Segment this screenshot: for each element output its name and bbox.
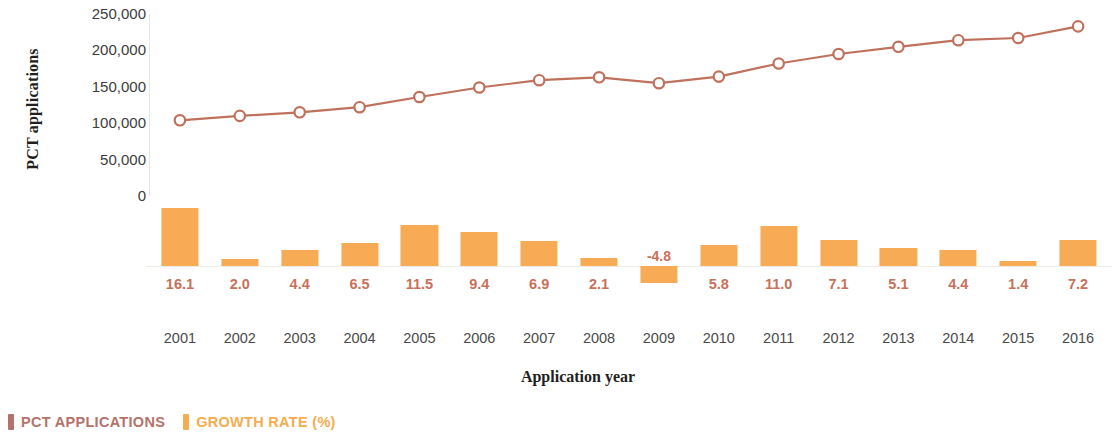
line-data-point [953, 35, 963, 45]
growth-rate-bar [341, 243, 378, 266]
growth-rate-value-label: 11.0 [749, 276, 809, 292]
x-axis-tick-label: 2001 [150, 330, 210, 346]
growth-rate-bar [281, 250, 318, 266]
legend-label: GROWTH RATE (%) [196, 414, 336, 430]
growth-rate-value-labels: 16.12.04.46.511.59.46.92.15.811.07.15.14… [150, 276, 1108, 298]
growth-rate-bars: -4.8 [150, 198, 1108, 270]
growth-rate-bar [521, 241, 558, 266]
x-axis-tick-label: 2015 [988, 330, 1048, 346]
growth-rate-value-label: 4.4 [270, 276, 330, 292]
growth-rate-value-label: 1.4 [988, 276, 1048, 292]
legend-item[interactable]: GROWTH RATE (%) [183, 414, 336, 430]
growth-rate-value-label: 5.8 [689, 276, 749, 292]
pct-applications-chart: PCT applications 250,000200,000150,00010… [0, 0, 1116, 439]
line-data-point [654, 78, 664, 88]
line-data-point [594, 72, 604, 82]
chart-legend: PCT APPLICATIONSGROWTH RATE (%) [8, 414, 336, 430]
x-axis-tick-label: 2008 [569, 330, 629, 346]
growth-rate-bar [760, 226, 797, 266]
growth-rate-bar [161, 208, 198, 266]
bar-slot [928, 198, 988, 270]
x-axis-tick-label: 2002 [210, 330, 270, 346]
legend-item[interactable]: PCT APPLICATIONS [8, 414, 165, 430]
growth-rate-bar [1000, 261, 1037, 266]
growth-rate-value-label: 7.1 [809, 276, 869, 292]
growth-rate-bar [880, 248, 917, 266]
x-axis-tick-label: 2010 [689, 330, 749, 346]
line-data-point [774, 58, 784, 68]
growth-rate-bar [581, 258, 618, 266]
bar-slot [150, 198, 210, 270]
x-axis-tick-labels: 2001200220032004200520062007200820092010… [150, 330, 1108, 352]
legend-swatch-icon [8, 414, 14, 430]
line-data-point [354, 102, 364, 112]
growth-rate-value-label: 16.1 [150, 276, 210, 292]
growth-rate-value-label: 7.2 [1048, 276, 1108, 292]
line-data-point [235, 111, 245, 121]
line-data-point [1013, 33, 1023, 43]
bar-slot [210, 198, 270, 270]
growth-rate-value-label: 4.4 [928, 276, 988, 292]
bar-slot [449, 198, 509, 270]
legend-label: PCT APPLICATIONS [21, 414, 165, 430]
x-axis-tick-label: 2013 [869, 330, 929, 346]
bar-slot [749, 198, 809, 270]
growth-rate-bar [940, 250, 977, 266]
line-data-point [1073, 21, 1083, 31]
growth-rate-bar [221, 259, 258, 266]
line-data-point [534, 75, 544, 85]
y-axis-tick-labels: 250,000200,000150,000100,00050,0000 [46, 0, 146, 200]
x-axis-tick-label: 2004 [330, 330, 390, 346]
growth-rate-bar [700, 245, 737, 266]
bar-slot [509, 198, 569, 270]
growth-rate-bar [1060, 240, 1097, 266]
y-axis-tick-label: 150,000 [46, 78, 146, 95]
x-axis-tick-label: 2012 [809, 330, 869, 346]
y-axis-title: PCT applications [24, 24, 42, 194]
x-axis-title: Application year [0, 368, 1116, 386]
growth-rate-bar [820, 240, 857, 266]
bar-slot [330, 198, 390, 270]
growth-rate-value-label: 9.4 [449, 276, 509, 292]
legend-swatch-icon [183, 414, 189, 430]
growth-rate-value-label: 5.1 [869, 276, 929, 292]
line-data-point [893, 42, 903, 52]
y-axis-tick-label: 200,000 [46, 41, 146, 58]
line-data-point [295, 107, 305, 117]
growth-rate-value-label: 6.5 [330, 276, 390, 292]
x-axis-tick-label: 2011 [749, 330, 809, 346]
x-axis-tick-label: 2006 [449, 330, 509, 346]
bar-slot [569, 198, 629, 270]
bar-slot [988, 198, 1048, 270]
line-data-point [714, 71, 724, 81]
growth-rate-value-label: 6.9 [509, 276, 569, 292]
x-axis-tick-label: 2007 [509, 330, 569, 346]
bar-slot: -4.8 [629, 198, 689, 270]
growth-rate-value-label: 11.5 [390, 276, 450, 292]
x-axis-tick-label: 2016 [1048, 330, 1108, 346]
growth-rate-value-label: 2.1 [569, 276, 629, 292]
x-axis-tick-label: 2009 [629, 330, 689, 346]
bar-slot [1048, 198, 1108, 270]
bar-slot [869, 198, 929, 270]
y-axis-tick-label: 50,000 [46, 151, 146, 168]
line-data-point [414, 92, 424, 102]
x-axis-tick-label: 2003 [270, 330, 330, 346]
bar-slot [689, 198, 749, 270]
line-data-point [175, 115, 185, 125]
line-data-point [833, 49, 843, 59]
growth-rate-bar [461, 232, 498, 266]
y-axis-tick-label: 250,000 [46, 5, 146, 22]
y-axis-tick-label: 100,000 [46, 114, 146, 131]
x-axis-tick-label: 2005 [390, 330, 450, 346]
pct-applications-line [150, 14, 1108, 202]
y-axis-tick-label: 0 [46, 187, 146, 204]
growth-rate-bar [401, 225, 438, 266]
x-axis-tick-label: 2014 [928, 330, 988, 346]
bar-slot [390, 198, 450, 270]
growth-rate-negative-label: -4.8 [647, 248, 671, 264]
bar-slot [809, 198, 869, 270]
line-path [180, 26, 1078, 120]
line-plot-area [150, 14, 1108, 202]
line-data-point [474, 82, 484, 92]
